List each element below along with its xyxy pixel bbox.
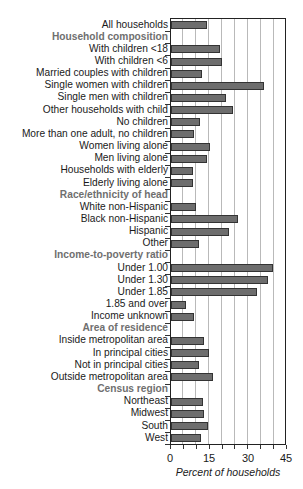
- category-label: Single men with children: [58, 91, 168, 103]
- y-tick: [165, 335, 170, 336]
- bar: [171, 410, 204, 418]
- bar: [171, 349, 209, 357]
- y-tick: [165, 153, 170, 154]
- y-tick: [165, 298, 170, 299]
- x-tick: [170, 445, 171, 449]
- x-tick: [209, 445, 210, 449]
- bar: [171, 94, 226, 102]
- x-tick: [183, 445, 184, 449]
- x-tick: [273, 445, 274, 449]
- bar: [171, 58, 222, 66]
- category-label: More than one adult, no children: [22, 128, 168, 140]
- y-tick: [165, 238, 170, 239]
- bar: [171, 215, 238, 223]
- x-tick-label: 15: [203, 452, 215, 464]
- y-tick: [165, 31, 170, 32]
- y-tick: [165, 250, 170, 251]
- x-tick: [222, 445, 223, 449]
- y-tick: [165, 286, 170, 287]
- bar: [171, 118, 200, 126]
- y-tick: [165, 165, 170, 166]
- bar: [171, 21, 207, 29]
- category-label: Hispanic: [129, 225, 168, 237]
- x-tick: [286, 445, 287, 449]
- bar-chart: All householdsHousehold compositionWith …: [0, 0, 303, 489]
- y-tick: [165, 92, 170, 93]
- bar: [171, 301, 186, 309]
- bar: [171, 155, 207, 163]
- section-header: Household composition: [52, 31, 168, 43]
- category-label: All households: [102, 19, 168, 31]
- bar: [171, 203, 196, 211]
- bar: [171, 398, 203, 406]
- category-label: Inside metropolitan area: [59, 334, 168, 346]
- category-label: West: [145, 432, 168, 444]
- y-tick: [165, 408, 170, 409]
- category-label: In principal cities: [93, 347, 168, 359]
- bar: [171, 70, 202, 78]
- category-label: No children: [116, 116, 168, 128]
- y-tick: [165, 128, 170, 129]
- y-tick: [165, 262, 170, 263]
- category-label: Not in principal cities: [75, 359, 168, 371]
- y-tick: [165, 68, 170, 69]
- bar: [171, 422, 208, 430]
- x-axis-label: Percent of households: [176, 466, 281, 478]
- bar: [171, 106, 233, 114]
- bar: [171, 240, 199, 248]
- category-label: With children <6: [95, 55, 168, 67]
- y-tick: [165, 384, 170, 385]
- section-header: Race/ethnicity of head: [60, 189, 168, 201]
- x-tick: [234, 445, 235, 449]
- section-header: Census region: [97, 383, 168, 395]
- x-tick-label: 0: [167, 452, 173, 464]
- category-label: Northeast: [124, 395, 168, 407]
- bar: [171, 373, 213, 381]
- bar: [171, 179, 193, 187]
- bar: [171, 228, 229, 236]
- y-tick: [165, 420, 170, 421]
- bar: [171, 130, 194, 138]
- bar: [171, 82, 264, 90]
- category-label: Single women with children: [45, 79, 168, 91]
- gridline: [273, 19, 274, 444]
- category-label: South: [141, 420, 168, 432]
- category-label: Women living alone: [79, 140, 168, 152]
- y-tick: [165, 177, 170, 178]
- bar: [171, 276, 268, 284]
- category-label: Under 1.85: [118, 286, 168, 298]
- y-tick: [165, 371, 170, 372]
- category-label: Men living alone: [94, 152, 168, 164]
- category-label: With children <18: [89, 43, 168, 55]
- category-label: Married couples with children: [36, 67, 168, 79]
- category-label: Under 1.30: [118, 274, 168, 286]
- bar: [171, 288, 257, 296]
- y-tick: [165, 189, 170, 190]
- x-tick: [260, 445, 261, 449]
- y-tick: [165, 80, 170, 81]
- bar: [171, 361, 199, 369]
- y-tick: [165, 116, 170, 117]
- category-label: Other households with child: [43, 104, 168, 116]
- category-label: Midwest: [131, 407, 168, 419]
- category-label: Outside metropolitan area: [51, 371, 168, 383]
- y-tick: [165, 323, 170, 324]
- y-tick: [165, 213, 170, 214]
- y-tick: [165, 432, 170, 433]
- y-tick: [165, 226, 170, 227]
- category-label: White non-Hispanic: [80, 201, 168, 213]
- bar: [171, 45, 220, 53]
- y-tick: [165, 347, 170, 348]
- y-tick: [165, 274, 170, 275]
- y-tick: [165, 141, 170, 142]
- bar: [171, 167, 193, 175]
- bar: [171, 143, 210, 151]
- x-tick: [196, 445, 197, 449]
- y-tick: [165, 55, 170, 56]
- section-header: Area of residence: [83, 322, 169, 334]
- y-tick: [165, 104, 170, 105]
- y-tick: [165, 396, 170, 397]
- bar: [171, 434, 201, 442]
- category-label: Black non-Hispanic: [81, 213, 168, 225]
- category-label: Elderly living alone: [83, 177, 168, 189]
